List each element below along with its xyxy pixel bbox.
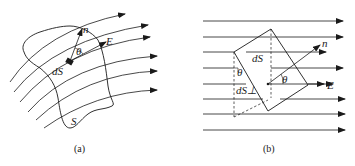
caption-b: (b) xyxy=(263,143,275,155)
figure-a: n E θ dS S (a) xyxy=(10,14,157,155)
closed-surface-s xyxy=(23,26,113,128)
label-theta-center-b: θ xyxy=(282,73,288,85)
figure-b: n E θ θ dS dS⊥ (b) xyxy=(203,21,345,155)
label-ds-perp-b: dS⊥ xyxy=(236,84,257,96)
label-n-a: n xyxy=(83,23,89,35)
label-ds-a: dS xyxy=(52,65,64,77)
electric-flux-figure: n E θ dS S (a) xyxy=(0,0,355,166)
surface-element-ds xyxy=(65,58,74,66)
label-e-b: E xyxy=(326,79,334,91)
caption-a: (a) xyxy=(74,143,85,155)
label-theta-side-b: θ xyxy=(237,66,243,78)
label-s-a: S xyxy=(71,115,77,127)
label-theta-a: θ xyxy=(76,45,82,57)
label-n-b: n xyxy=(322,37,328,49)
label-ds-b: dS xyxy=(252,52,264,64)
normal-vector-n-b xyxy=(268,45,320,84)
label-e-a: E xyxy=(105,35,113,47)
